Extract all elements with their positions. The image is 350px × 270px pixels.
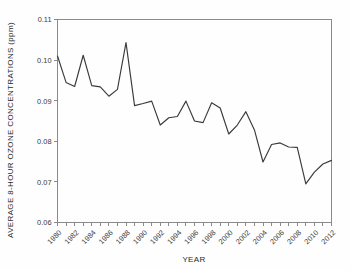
x-tick-label: 1994: [165, 228, 183, 246]
y-tick-label: 0.10: [37, 56, 51, 65]
x-tick-label: 2002: [234, 228, 252, 246]
x-tick-label: 1982: [63, 228, 81, 246]
y-axis-title: AVERAGE 8-HOUR OZONE CONCENTRATIONS (ppm…: [6, 22, 15, 238]
x-tick-label: 1996: [182, 228, 200, 246]
ozone-line-chart: 0.060.070.080.090.100.11 198019821984198…: [0, 0, 350, 270]
x-tick-label: 1988: [114, 228, 132, 246]
ozone-trend-line: [58, 43, 332, 184]
y-tick-label: 0.06: [37, 218, 51, 227]
x-tick-label: 2000: [217, 228, 235, 246]
x-axis-title: YEAR: [182, 255, 205, 264]
x-tick-label: 1980: [45, 228, 63, 246]
y-tick-label: 0.07: [37, 178, 51, 187]
x-tick-label: 1998: [200, 228, 218, 246]
chart-figure: 0.060.070.080.090.100.11 198019821984198…: [0, 0, 350, 270]
y-tick-label: 0.08: [37, 137, 51, 146]
x-tick-label: 1990: [131, 228, 149, 246]
y-tick-label: 0.11: [38, 15, 52, 24]
x-tick-label: 2008: [285, 228, 303, 246]
x-tick-label: 1984: [80, 228, 98, 246]
data-series-layer: [58, 43, 332, 184]
x-tick-label: 2012: [319, 228, 337, 246]
y-tick-label: 0.09: [37, 97, 51, 106]
x-tick-label: 2010: [302, 228, 320, 246]
x-tick-label: 2004: [251, 228, 269, 246]
x-axis-ticks: 1980198219841986198819901992199419961998…: [45, 223, 337, 247]
x-tick-label: 1986: [97, 228, 115, 246]
y-axis-ticks: 0.060.070.080.090.100.11: [37, 15, 57, 227]
x-tick-label: 1992: [148, 228, 166, 246]
x-tick-label: 2006: [268, 228, 286, 246]
